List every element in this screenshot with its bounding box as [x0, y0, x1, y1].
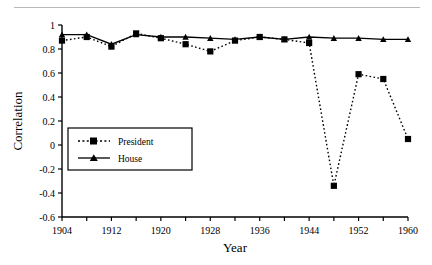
x-tick-label: 1936: [250, 225, 270, 236]
x-tick-label: 1928: [200, 225, 220, 236]
legend-label-house: House: [118, 154, 142, 164]
president-data-point: [59, 38, 65, 44]
y-tick-label: -0.4: [39, 188, 55, 199]
president-data-point: [158, 35, 164, 41]
president-data-point: [380, 76, 386, 82]
legend-label-president: President: [118, 137, 154, 147]
president-data-point: [405, 136, 411, 142]
x-tick-label: 1960: [398, 225, 418, 236]
x-axis-tick-labels: 19041912192019281936194419521960: [52, 225, 418, 236]
y-tick-label: -0.6: [39, 212, 55, 223]
president-data-point: [232, 38, 238, 44]
x-tick-label: 1920: [151, 225, 171, 236]
president-data-point: [182, 41, 188, 47]
x-axis-title: Year: [223, 240, 248, 255]
y-tick-label: 0: [50, 140, 55, 151]
y-tick-label: 0.8: [43, 44, 56, 55]
chart-legend: President House: [68, 128, 192, 170]
y-tick-label: -0.2: [39, 164, 55, 175]
legend-marker-square-president: [90, 138, 97, 145]
x-tick-label: 1952: [349, 225, 369, 236]
president-data-point: [84, 34, 90, 40]
y-axis-title: Correlation: [10, 91, 25, 151]
y-tick-label: 0.2: [43, 116, 56, 127]
chart-figure: 10.80.60.40.20-0.2-0.4-0.6 1904191219201…: [0, 0, 432, 265]
president-data-point: [133, 30, 139, 36]
x-tick-label: 1904: [52, 225, 72, 236]
president-data-point: [207, 48, 213, 54]
president-data-point: [108, 44, 114, 50]
y-axis-tick-labels: 10.80.60.40.20-0.2-0.4-0.6: [39, 20, 55, 223]
x-tick-label: 1944: [299, 225, 319, 236]
legend-box: [68, 128, 192, 170]
correlation-line-chart: 10.80.60.40.20-0.2-0.4-0.6 1904191219201…: [0, 0, 432, 265]
president-data-point: [331, 183, 337, 189]
president-data-point: [281, 36, 287, 42]
y-tick-label: 1: [50, 20, 55, 31]
y-tick-label: 0.4: [43, 92, 56, 103]
y-tick-label: 0.6: [43, 68, 56, 79]
president-data-point: [355, 71, 361, 77]
president-data-point: [306, 40, 312, 46]
x-tick-label: 1912: [101, 225, 121, 236]
president-data-point: [257, 34, 263, 40]
